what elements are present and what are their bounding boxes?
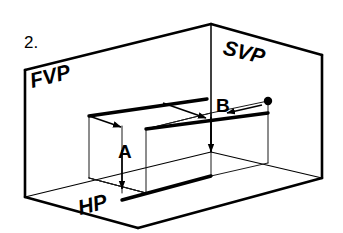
construction-lines — [89, 101, 268, 193]
arrow-to-a — [89, 116, 121, 127]
svp-label: SVP — [221, 36, 268, 69]
arrow-to-b-from-top — [163, 103, 206, 118]
figure-number-label: 2. — [24, 33, 38, 52]
hp-svp-fold-line — [211, 152, 322, 178]
hp-label: HP — [75, 189, 110, 219]
svp-projector-bottom — [211, 163, 268, 176]
front-view-projection-heavy — [146, 113, 268, 129]
technical-drawing-canvas: 2. FVP SVP HP A B — [0, 0, 343, 233]
point-a-label: A — [118, 141, 132, 162]
fvp-label: FVP — [27, 59, 73, 91]
object-top-edge-heavy — [89, 99, 207, 116]
point-marker-dot — [264, 97, 272, 105]
top-view-projection-heavy — [122, 176, 211, 200]
hp-right-front-edge — [138, 178, 322, 228]
projection-figure: 2. FVP SVP HP A B — [0, 0, 343, 233]
point-b-label: B — [216, 95, 230, 116]
